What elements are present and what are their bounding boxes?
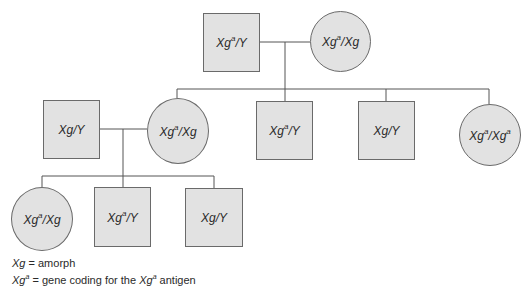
genotype-label: Xga/Xga bbox=[469, 128, 511, 143]
genotype-label: Xga/Xg bbox=[159, 124, 196, 139]
pedigree-male-II-3: Xg/Y bbox=[358, 101, 415, 160]
genotype-label: Xga/Y bbox=[269, 123, 300, 138]
genotype-label: Xg/Y bbox=[201, 211, 227, 225]
genotype-label: Xg/Y bbox=[58, 123, 84, 137]
genotype-label: Xga/Xg bbox=[23, 212, 60, 227]
pedigree-male-II-2: Xga/Y bbox=[256, 101, 313, 160]
genotype-label: Xga/Y bbox=[107, 210, 138, 225]
pedigree-female-II-1: Xga/Xg bbox=[147, 98, 209, 164]
pedigree-female-I-2: Xga/Xg bbox=[310, 11, 371, 72]
pedigree-male-III-2: Xga/Y bbox=[94, 187, 151, 247]
genotype-label: Xg/Y bbox=[373, 124, 399, 138]
pedigree-male-I-1: Xga/Y bbox=[203, 13, 260, 72]
genotype-label: Xga/Y bbox=[216, 35, 247, 50]
pedigree-female-II-4: Xga/Xga bbox=[459, 104, 521, 166]
pedigree-male-II-0: Xg/Y bbox=[43, 100, 100, 159]
pedigree-female-III-1: Xga/Xg bbox=[11, 187, 73, 251]
legend-line-amorph: Xg = amorph bbox=[12, 256, 196, 270]
legend-line-antigen: Xga = gene coding for the Xga antigen bbox=[12, 270, 196, 286]
legend: Xg = amorph Xga = gene coding for the Xg… bbox=[12, 256, 196, 286]
pedigree-male-III-3: Xg/Y bbox=[185, 188, 243, 247]
genotype-label: Xga/Xg bbox=[322, 34, 359, 49]
